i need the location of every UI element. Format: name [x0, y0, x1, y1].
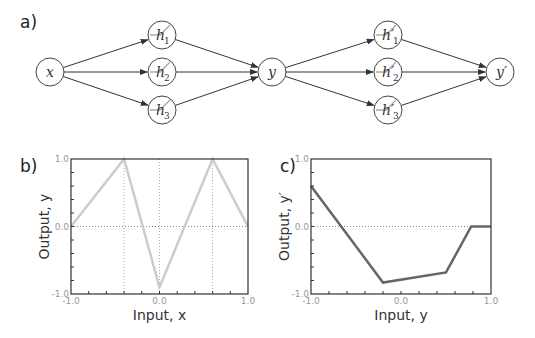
node-x: x — [36, 58, 64, 86]
panel-label-a: a) — [20, 12, 37, 32]
node-h1: h1 — [148, 21, 176, 49]
edge-y-h3p — [285, 76, 373, 105]
x-tick-label: 1.0 — [484, 296, 499, 306]
node-label: y — [267, 64, 277, 80]
node-subscript: 2 — [393, 73, 399, 83]
chart-b: -1.00.01.0-1.00.01.0Input, xOutput, y — [36, 154, 255, 323]
y-tick-label: 0.0 — [295, 222, 310, 232]
node-h2p: h′2 — [374, 58, 402, 86]
node-subscript: 1 — [164, 36, 170, 46]
edge-x-h1 — [63, 40, 147, 68]
edge-h1-y — [175, 39, 258, 67]
chart-c: -1.00.01.0-1.00.01.0Input, yOutput, y′ — [276, 154, 498, 323]
edge-x-h3 — [63, 76, 148, 105]
network-diagram: xh1h2h3yh′1h′2h′3y′ — [36, 21, 514, 124]
figure: a) xh1h2h3yh′1h′2h′3y′ b) -1.00.01.0-1.0… — [0, 0, 535, 338]
node-h3p: h′3 — [374, 96, 402, 124]
node-y: y — [258, 58, 286, 86]
y-tick-label: 0.0 — [55, 222, 70, 232]
y-tick-label: 1.0 — [295, 154, 310, 164]
x-axis-label: Input, x — [133, 307, 186, 323]
node-label: x — [46, 64, 54, 80]
x-tick-label: 0.0 — [152, 296, 167, 306]
y-tick-label: 1.0 — [55, 154, 70, 164]
node-subscript: 1 — [393, 36, 399, 46]
node-yp: y′ — [486, 58, 514, 86]
edge-h3p-yp — [401, 77, 486, 106]
edge-h1p-yp — [401, 39, 485, 67]
node-h1p: h′1 — [374, 21, 402, 49]
node-label: y′ — [495, 64, 508, 80]
node-subscript: 3 — [393, 111, 399, 121]
data-line — [71, 159, 248, 287]
panel-label-b: b) — [20, 156, 37, 176]
y-axis-label: Output, y′ — [276, 192, 292, 261]
panel-label-c: c) — [280, 156, 296, 176]
edge-h3-y — [175, 77, 258, 106]
y-axis-label: Output, y — [36, 194, 52, 260]
edge-y-h1p — [285, 40, 373, 68]
node-subscript: 2 — [164, 73, 170, 83]
x-tick-label: 0.0 — [394, 296, 409, 306]
node-h2: h2 — [148, 58, 176, 86]
y-tick-label: -1.0 — [291, 289, 309, 299]
data-line — [311, 186, 491, 283]
node-subscript: 3 — [164, 111, 170, 121]
x-axis-label: Input, y — [374, 307, 427, 323]
x-tick-label: 1.0 — [241, 296, 256, 306]
y-tick-label: -1.0 — [51, 289, 69, 299]
node-h3: h3 — [148, 96, 176, 124]
